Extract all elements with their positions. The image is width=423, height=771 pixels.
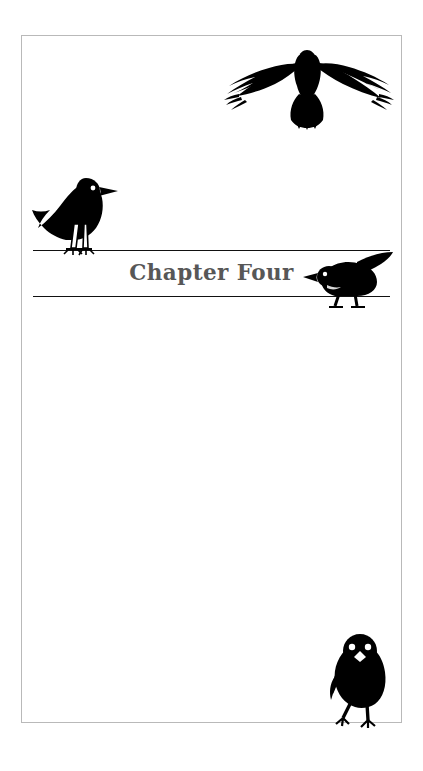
page-border-frame [21, 35, 402, 723]
chapter-page: Chapter Four [0, 0, 423, 771]
crow-flying-icon [223, 38, 395, 130]
crow-front-facing-icon [327, 628, 393, 728]
crow-crouching-icon [303, 252, 395, 308]
crow-perched-icon [30, 164, 120, 256]
